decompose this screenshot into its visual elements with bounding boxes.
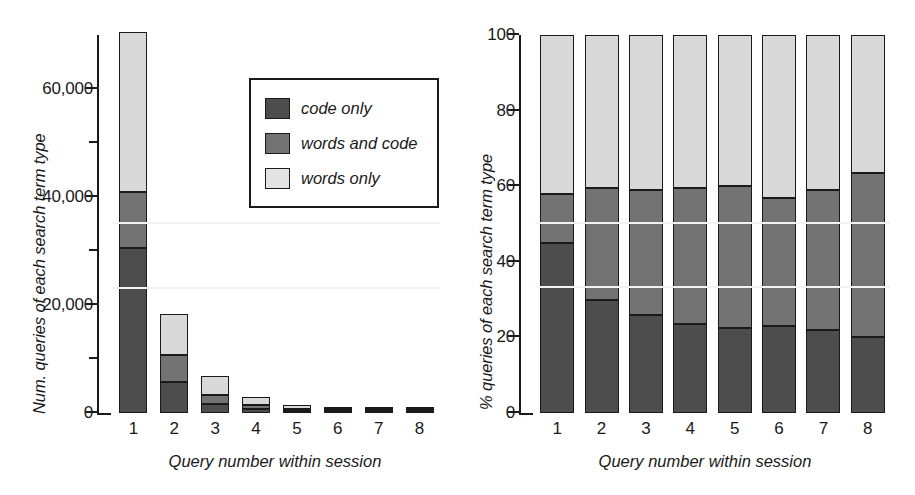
y-tick-label: 60,000 bbox=[42, 79, 93, 99]
bar-segment bbox=[365, 411, 393, 413]
legend-swatch-words-only bbox=[265, 168, 290, 189]
bar-segment bbox=[718, 328, 752, 413]
y-tick-label: 20,000 bbox=[42, 295, 93, 315]
x-tick-label: 6 bbox=[333, 419, 342, 439]
x-tick-label: 3 bbox=[641, 419, 650, 439]
y-tick-label: 20 bbox=[496, 327, 515, 347]
bar-segment bbox=[242, 397, 270, 406]
legend-item: words only bbox=[265, 161, 437, 196]
bar-segment bbox=[673, 188, 707, 324]
bar-segment bbox=[851, 35, 885, 173]
bar-segment bbox=[540, 194, 574, 243]
y-tick-label: 40,000 bbox=[42, 187, 93, 207]
bar-segment bbox=[629, 35, 663, 190]
bar-8 bbox=[851, 35, 885, 413]
bar-5 bbox=[718, 35, 752, 413]
x-axis-title-left: Query number within session bbox=[110, 452, 440, 471]
bar-segment bbox=[283, 411, 311, 413]
bar-segment bbox=[160, 382, 188, 413]
bar-segment bbox=[762, 198, 796, 327]
y-tick-label: 100 bbox=[487, 25, 515, 45]
bar-segment bbox=[160, 355, 188, 382]
x-axis-title-right: Query number within session bbox=[515, 452, 895, 471]
bar-segment bbox=[540, 35, 574, 194]
y-tick-label: 0 bbox=[506, 403, 515, 423]
legend-item: code only bbox=[265, 91, 437, 126]
y-tick-label: 60 bbox=[496, 176, 515, 196]
chart-panel-right: % queries of each search term type 12345… bbox=[455, 0, 915, 495]
bar-segment bbox=[406, 411, 434, 413]
bar-3 bbox=[201, 376, 229, 413]
bar-segment bbox=[119, 248, 147, 413]
x-axis-origin-elbow-right bbox=[519, 413, 533, 415]
bar-5 bbox=[283, 405, 311, 413]
plot-area-right: 12345678 020406080100 bbox=[535, 35, 890, 413]
bar-segment bbox=[851, 337, 885, 413]
bar-segment bbox=[673, 35, 707, 188]
bar-segment bbox=[851, 173, 885, 337]
y-tick bbox=[89, 249, 97, 251]
bar-segment bbox=[585, 188, 619, 300]
bar-6 bbox=[762, 35, 796, 413]
x-tick-label: 1 bbox=[129, 419, 138, 439]
legend-swatch-words-and-code bbox=[265, 133, 290, 154]
bar-7 bbox=[365, 410, 393, 413]
bar-segment bbox=[201, 376, 229, 395]
bar-segment bbox=[585, 35, 619, 188]
bar-2 bbox=[585, 35, 619, 413]
y-axis-title-right: % queries of each search term type bbox=[477, 154, 496, 410]
bar-segment bbox=[718, 186, 752, 328]
bar-7 bbox=[806, 35, 840, 413]
legend-item: words and code bbox=[265, 126, 437, 161]
bar-2 bbox=[160, 314, 188, 413]
bar-segment bbox=[806, 330, 840, 413]
y-axis-spine-right bbox=[519, 35, 521, 413]
x-tick-label: 6 bbox=[774, 419, 783, 439]
x-tick-label: 5 bbox=[292, 419, 301, 439]
legend-label: code only bbox=[301, 99, 372, 118]
bar-segment bbox=[718, 35, 752, 186]
bar-segment bbox=[119, 32, 147, 191]
y-axis-title-left: Num. queries of each search term type bbox=[30, 133, 49, 414]
x-tick-label: 4 bbox=[251, 419, 260, 439]
bar-segment bbox=[324, 411, 352, 413]
y-tick-label: 80 bbox=[496, 101, 515, 121]
bar-3 bbox=[629, 35, 663, 413]
x-tick-label: 1 bbox=[552, 419, 561, 439]
bar-segment bbox=[762, 326, 796, 413]
x-axis-origin-elbow-left bbox=[97, 413, 111, 415]
legend-swatch-code-only bbox=[265, 98, 290, 119]
bar-segment bbox=[242, 409, 270, 413]
bar-segment bbox=[629, 190, 663, 315]
bar-segment bbox=[629, 315, 663, 413]
y-axis-spine-left bbox=[97, 35, 99, 413]
x-tick-label: 8 bbox=[415, 419, 424, 439]
legend-label: words only bbox=[301, 169, 380, 188]
bars-right bbox=[535, 35, 890, 413]
bar-4 bbox=[242, 397, 270, 413]
bar-1 bbox=[119, 32, 147, 413]
figure-root: Num. queries of each search term type 12… bbox=[0, 0, 915, 495]
bar-segment bbox=[806, 35, 840, 190]
bar-segment bbox=[762, 35, 796, 198]
chart-panel-left: Num. queries of each search term type 12… bbox=[0, 0, 455, 495]
bar-6 bbox=[324, 409, 352, 413]
x-tick-label: 5 bbox=[730, 419, 739, 439]
x-tick-label: 4 bbox=[686, 419, 695, 439]
legend: code only words and code words only bbox=[249, 78, 439, 208]
bar-segment bbox=[201, 404, 229, 413]
y-tick bbox=[89, 141, 97, 143]
bar-segment bbox=[585, 300, 619, 413]
bar-segment bbox=[201, 395, 229, 404]
x-tick-label: 3 bbox=[210, 419, 219, 439]
x-tick-label: 2 bbox=[597, 419, 606, 439]
bar-8 bbox=[406, 411, 434, 413]
bar-segment bbox=[160, 314, 188, 356]
legend-label: words and code bbox=[301, 134, 418, 153]
x-tick-label: 8 bbox=[863, 419, 872, 439]
x-tick-label: 7 bbox=[374, 419, 383, 439]
y-tick-label: 40 bbox=[496, 252, 515, 272]
bar-segment bbox=[806, 190, 840, 330]
bar-1 bbox=[540, 35, 574, 413]
bar-4 bbox=[673, 35, 707, 413]
